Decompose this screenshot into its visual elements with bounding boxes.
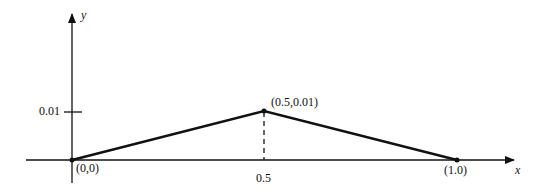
origin-label: (0,0) xyxy=(76,161,99,176)
point-end xyxy=(455,158,460,163)
x-axis-label: x xyxy=(515,163,520,178)
point-origin xyxy=(70,158,75,163)
x-tick-label: 0.5 xyxy=(256,171,271,186)
peak-label: (0.5,0.01) xyxy=(271,95,318,110)
y-tick-label: 0.01 xyxy=(39,104,60,119)
point-peak xyxy=(262,109,267,114)
end-label: (1.0) xyxy=(444,163,467,178)
y-axis-label: y xyxy=(81,8,86,23)
